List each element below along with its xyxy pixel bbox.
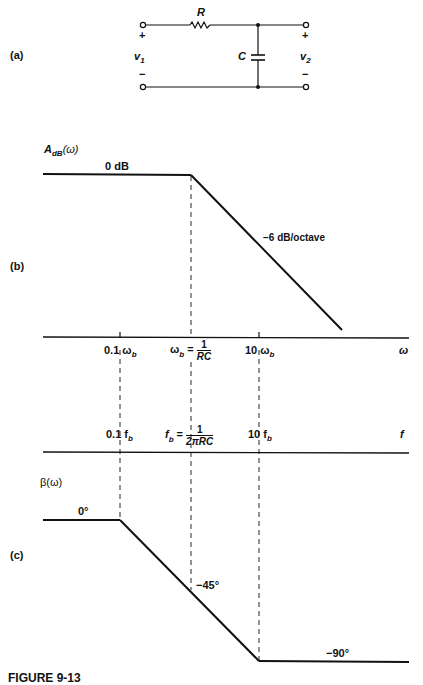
input-terminal-top (140, 22, 145, 27)
tick-label-0.1-omega-b: 0.1 ωb (104, 344, 137, 359)
tick-label-f-b: fb = 12πRC (165, 424, 213, 447)
phase-flat-end (259, 661, 409, 662)
magnitude-flat-asymptote (43, 174, 191, 175)
resistor-symbol (190, 22, 210, 28)
capacitor-label: C (238, 50, 246, 62)
input-minus: − (139, 68, 145, 80)
omega-axis (43, 337, 409, 338)
resistor-label: R (197, 6, 205, 18)
zero-db-label: 0 dB (105, 160, 129, 172)
tick-label-0.1-f-b: 0.1 fb (106, 428, 133, 443)
output-plus: + (302, 29, 308, 41)
slope-label: −6 dB/octave (263, 232, 325, 243)
phase-slope (120, 520, 259, 661)
figure-caption: FIGURE 9-13 (8, 671, 81, 685)
magnitude-axis-label: AdB(ω) (44, 143, 79, 158)
output-terminal-bottom (303, 84, 308, 89)
f-axis-label: f (400, 428, 404, 440)
input-terminal-bottom (140, 84, 145, 89)
phase-axis-label: β(ω) (40, 476, 62, 488)
omega-axis-label: ω (399, 344, 408, 356)
tick-label-10-f-b: 10 fb (248, 428, 272, 443)
output-voltage-label: v2 (300, 50, 311, 65)
output-terminal-top (303, 22, 308, 27)
phase-0-label: 0° (78, 505, 89, 517)
input-plus: + (139, 29, 145, 41)
tick-label-omega-b: ωb = 1RC (170, 339, 211, 362)
phase-45-label: −45° (196, 579, 219, 591)
dashed-guides (120, 176, 259, 660)
magnitude-rolloff-asymptote (191, 175, 342, 330)
panel-label-b: (b) (10, 260, 24, 272)
panel-label-c: (c) (10, 549, 23, 561)
input-voltage-label: v1 (134, 50, 145, 65)
output-minus: − (302, 68, 308, 80)
tick-label-10-omega-b: 10 ωb (245, 344, 274, 359)
phase-90-label: −90° (326, 647, 349, 659)
panel-label-a: (a) (10, 49, 23, 61)
frequency-axis (43, 452, 409, 453)
